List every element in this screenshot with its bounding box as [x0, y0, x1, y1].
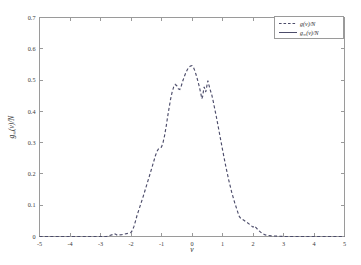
- y-tick-label: 0.7: [28, 14, 36, 21]
- x-tick-label: 3: [282, 240, 285, 247]
- y-tick-label: 0.6: [28, 45, 36, 52]
- x-tick-label: -1: [159, 240, 164, 247]
- x-tick-label: -4: [67, 240, 72, 247]
- legend-entry-1: g(v)/N: [300, 21, 316, 28]
- y-axis-label: g∞(v)/N: [7, 115, 17, 139]
- x-tick-label: -2: [128, 240, 133, 247]
- chart-legend[interactable]: g(v)/N g∞(v)/N: [275, 17, 344, 39]
- series-g-of-v: [40, 66, 345, 237]
- chart-plot: -5-4-3-2-1012345 00.10.20.30.40.50.60.7 …: [0, 0, 361, 265]
- x-tick-label: 4: [312, 240, 315, 247]
- figure-canvas: -5-4-3-2-1012345 00.10.20.30.40.50.60.7 …: [0, 0, 361, 265]
- x-tick-label: -3: [98, 240, 103, 247]
- y-tick-label: 0.2: [28, 170, 36, 177]
- y-axis-ticks: 00.10.20.30.40.50.60.7: [28, 14, 345, 240]
- y-label-rest: (v)/N: [7, 115, 16, 131]
- axes-frame: [40, 18, 345, 237]
- legend-2-rest: (v)/N: [306, 30, 319, 37]
- x-axis-label: v: [190, 245, 194, 254]
- x-axis-ticks: -5-4-3-2-1012345: [37, 18, 346, 247]
- svg-text:g∞(v)/N: g∞(v)/N: [7, 115, 17, 139]
- x-tick-label: 5: [343, 240, 346, 247]
- x-tick-label: 1: [221, 240, 224, 247]
- y-tick-label: 0: [32, 233, 35, 240]
- y-tick-label: 0.1: [28, 201, 36, 208]
- y-tick-label: 0.3: [28, 139, 36, 146]
- y-tick-label: 0.5: [28, 76, 36, 83]
- x-tick-label: 2: [251, 240, 254, 247]
- x-tick-label: -5: [37, 240, 42, 247]
- y-tick-label: 0.4: [28, 108, 36, 115]
- legend-1-rest: (v)/N: [303, 21, 316, 28]
